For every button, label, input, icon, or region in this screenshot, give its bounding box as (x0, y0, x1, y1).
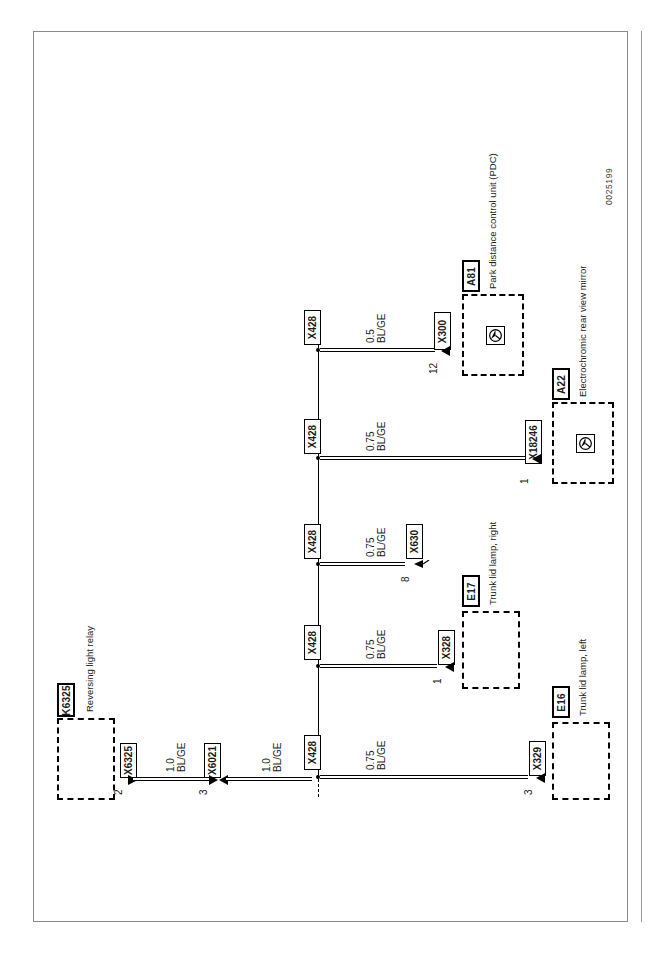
terminal-wedge-x18246 (532, 454, 546, 468)
terminal-wedge-x328 (445, 662, 459, 676)
wire-segment-w4 (320, 664, 437, 668)
connector-x6021: X6021 (204, 743, 221, 778)
wire-label-w2: 1.0 BL/GE (262, 743, 284, 772)
component-ref-k6325: K6325 (57, 683, 75, 717)
pin-number-x18246: 1 (519, 478, 530, 484)
pin-number-x328: 1 (432, 678, 443, 684)
pin-number-x329: 3 (523, 789, 534, 795)
pin-number-x300: 12 (428, 363, 439, 374)
wire-label-w4: 0.75 BL/GE (366, 630, 388, 659)
connector-x6325: X6325 (120, 743, 137, 778)
component-desc-a81: Park distance control unit (PDC) (488, 153, 498, 289)
connector-x328: X328 (438, 630, 455, 665)
wire-segment-w3 (320, 775, 528, 779)
component-ref-a81: A81 (462, 260, 480, 292)
pin-number-x6325: 2 (113, 789, 124, 795)
terminal-wedge-x300 (441, 346, 455, 360)
wire-label-w3: 0.75 BL/GE (366, 741, 388, 770)
connector-x329: X329 (529, 741, 546, 776)
component-ref-a22: A22 (552, 368, 570, 400)
device-enclosure-e16 (552, 722, 610, 800)
mirror-symbol-icon (576, 434, 595, 453)
pin-number-x6021: 3 (198, 789, 209, 795)
component-ref-e16: E16 (552, 686, 570, 718)
splice-x428-4: X428 (304, 419, 321, 454)
wire-segment-w5 (320, 562, 405, 566)
wire-segment-w6 (320, 456, 527, 460)
component-desc-a22: Electrochromic rear view mirror (578, 266, 588, 397)
terminal-wedge-x329 (536, 773, 550, 787)
connector-x300: X300 (434, 312, 451, 350)
splice-bus-x428-stub (318, 779, 319, 797)
wire-label-w1: 1.0 BL/GE (166, 743, 188, 772)
wire-label-w5: 0.75 BL/GE (366, 528, 388, 557)
wire-segment-w7 (320, 348, 435, 352)
splice-x428-3: X428 (304, 524, 321, 559)
component-desc-k6325: Reversing light relay (85, 626, 95, 712)
sheet-right-edge (641, 31, 642, 922)
component-desc-e16: Trunk lid lamp, left (578, 639, 588, 716)
device-enclosure-e17 (462, 611, 520, 689)
device-enclosure-k6325 (57, 718, 115, 800)
wire-label-w6: 0.75 BL/GE (366, 422, 388, 451)
pdc-symbol-icon (486, 326, 505, 345)
wire-segment-w1 (133, 777, 211, 781)
pin-number-x630: 8 (400, 576, 411, 582)
connector-x630: X630 (406, 524, 423, 559)
wire-label-w7: 0.5 BL/GE (366, 314, 388, 343)
splice-x428-2: X428 (304, 625, 321, 660)
wire-segment-w2 (226, 777, 312, 781)
terminal-wedge-x630 (414, 560, 430, 574)
splice-x428-5: X428 (304, 310, 321, 345)
component-desc-e17: Trunk lid lamp, right (488, 522, 498, 605)
component-ref-e17: E17 (462, 575, 480, 607)
splice-x428-1: X428 (304, 735, 321, 770)
document-id: 0025199 (604, 168, 614, 205)
